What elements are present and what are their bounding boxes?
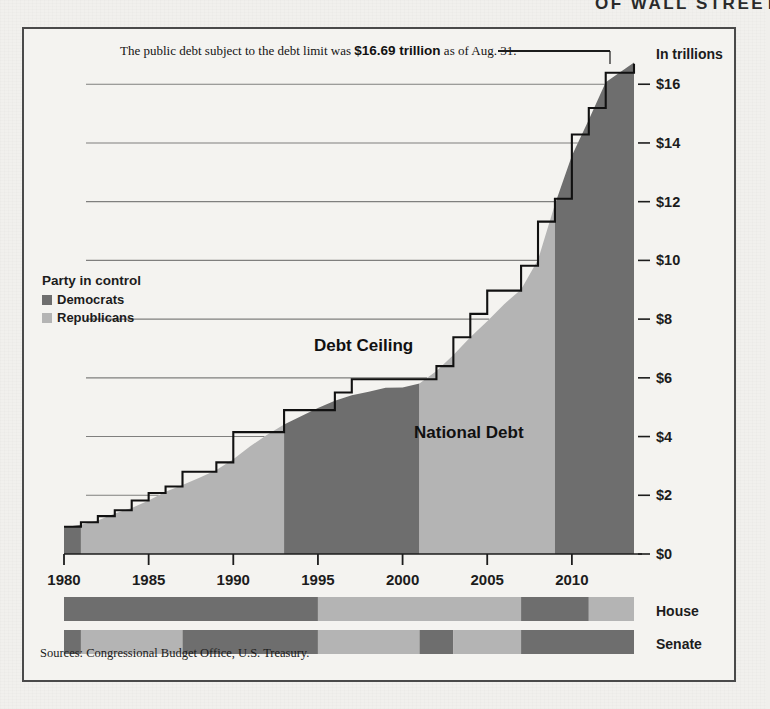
y-axis-ticks: $0$2$4$6$8$10$12$14$16: [638, 76, 680, 562]
house-control-segment: [521, 597, 589, 621]
x-axis-tick-label: 2005: [471, 571, 504, 588]
legend-title: Party in control: [42, 273, 141, 288]
x-axis-tick-label: 1990: [217, 571, 250, 588]
x-axis-ticks: 1980198519901995200020052010: [47, 554, 588, 588]
debt-ceiling-chart: $0$2$4$6$8$10$12$14$16 19801985199019952…: [24, 29, 738, 684]
house-control-band: [64, 597, 634, 621]
x-axis-tick-label: 1985: [132, 571, 165, 588]
y-axis-tick-label: $10: [656, 252, 680, 268]
x-axis-tick-label: 2010: [555, 571, 588, 588]
national-debt-label: National Debt: [414, 423, 524, 442]
house-control-segment: [318, 597, 521, 621]
y-axis-tick-label: $14: [656, 135, 680, 151]
y-axis-tick-label: $2: [656, 487, 672, 503]
y-axis-tick-label: $8: [656, 311, 672, 327]
house-control-segment: [589, 597, 634, 621]
senate-control-segment: [420, 630, 454, 654]
debt-ceiling-label: Debt Ceiling: [314, 336, 413, 355]
y-axis-tick-label: $0: [656, 546, 672, 562]
y-axis-tick-label: $16: [656, 76, 680, 92]
legend-swatch: [42, 313, 52, 323]
source-note: Sources: Congressional Budget Office, U.…: [40, 646, 309, 660]
senate-control-segment: [521, 630, 634, 654]
legend: Party in controlDemocratsRepublicans: [42, 273, 141, 325]
annotation-callout: The public debt subject to the debt limi…: [120, 43, 610, 64]
chamber-labels: HouseSenate: [656, 603, 702, 652]
y-axis-title-label: In trillions: [656, 46, 723, 62]
y-axis-title: In trillions: [656, 46, 723, 62]
x-axis-tick-label: 2000: [386, 571, 419, 588]
y-axis-tick-label: $6: [656, 370, 672, 386]
y-axis-tick-label: $4: [656, 429, 672, 445]
masthead-fragment: OF WALL STREET: [595, 0, 770, 14]
chart-frame: $0$2$4$6$8$10$12$14$16 19801985199019952…: [22, 27, 736, 682]
senate-band-label: Senate: [656, 636, 702, 652]
annotation-text: The public debt subject to the debt limi…: [120, 43, 516, 58]
y-axis-tick-label: $12: [656, 194, 680, 210]
house-band-label: House: [656, 603, 699, 619]
legend-item-label: Democrats: [57, 292, 124, 307]
house-control-segment: [64, 597, 318, 621]
senate-control-segment: [318, 630, 420, 654]
legend-swatch: [42, 295, 52, 305]
x-axis-tick-label: 1980: [47, 571, 80, 588]
x-axis-tick-label: 1995: [301, 571, 334, 588]
party-shading-bands: [64, 49, 634, 554]
senate-control-segment: [453, 630, 521, 654]
legend-item-label: Republicans: [57, 310, 134, 325]
